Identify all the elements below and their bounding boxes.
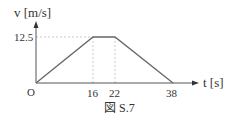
y-tick-12-5: 12.5 — [14, 31, 34, 43]
origin-label: O — [27, 86, 35, 98]
velocity-line — [36, 37, 173, 83]
x-tick-22: 22 — [109, 87, 120, 99]
x-tick-16: 16 — [87, 87, 99, 99]
x-axis-label: t [s] — [203, 75, 224, 90]
x-tick-38: 38 — [166, 87, 178, 99]
y-axis-label: v [m/s] — [14, 5, 51, 20]
figure-caption: 図 S.7 — [104, 101, 135, 115]
velocity-time-chart: v [m/s] t [s] 12.5 O 16 22 38 図 S.7 — [0, 0, 233, 126]
y-axis-arrow-icon — [34, 21, 39, 28]
x-axis-arrow-icon — [192, 81, 199, 86]
